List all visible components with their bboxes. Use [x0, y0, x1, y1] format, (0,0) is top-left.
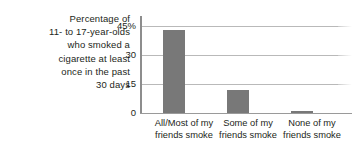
x-axis-label-none: None of my friends smoke	[242, 118, 355, 141]
y-axis-tick-label-30: 30	[90, 50, 136, 60]
caption-line: once in the past	[8, 65, 130, 78]
x-axis-label-line: friends smoke	[242, 130, 355, 142]
bar-none-friends-smoke[interactable]	[291, 111, 313, 113]
y-axis-tick-label-15: 15	[90, 79, 136, 89]
bar-chart-figure: Percentage of 11- to 17-year-olds who sm…	[0, 0, 355, 151]
bar-all-most-friends-smoke[interactable]	[163, 30, 185, 113]
x-axis-label-line: None of my	[242, 118, 355, 130]
plot-area	[140, 16, 352, 113]
x-axis-line	[140, 113, 352, 114]
y-axis-tick-label-0: 0	[90, 108, 136, 118]
bar-some-friends-smoke[interactable]	[227, 90, 249, 113]
y-axis-tick-label-45: 45%	[90, 21, 136, 31]
